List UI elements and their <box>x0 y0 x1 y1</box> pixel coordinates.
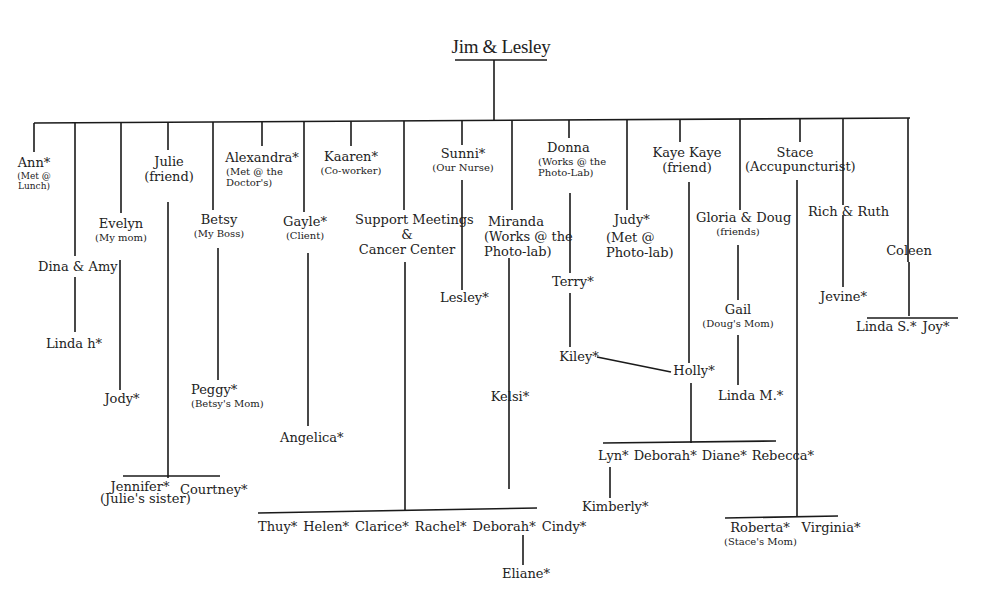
node-kaaren: Kaaren* (Co-worker) <box>318 150 384 176</box>
node-lyn: Lyn* <box>598 448 629 463</box>
node-holly: Holly* <box>672 364 716 379</box>
node-julie: Julie (friend) <box>142 155 196 185</box>
node-judy: Judy* (Met @ Photo-lab) <box>606 213 672 261</box>
node-coleen: Coleen <box>886 244 932 259</box>
node-stace: Stace (Accupuncturist) <box>745 146 845 173</box>
node-gail: Gail (Doug's Mom) <box>702 303 774 329</box>
node-betsy: Betsy (My Boss) <box>192 213 246 239</box>
node-jevine: Jevine* <box>820 290 866 305</box>
node-peggy: Peggy* (Betsy's Mom) <box>191 383 271 409</box>
node-angelica: Angelica* <box>280 431 340 446</box>
node-linda-s: Linda S.* <box>856 320 912 335</box>
node-rebecca: Rebecca* <box>752 448 814 463</box>
node-linda-h: Linda h* <box>44 337 104 352</box>
node-sunni: Sunni* (Our Nurse) <box>432 147 494 173</box>
node-terry: Terry* <box>552 275 592 290</box>
support-children-row: Thuy*Helen*Clarice*Rachel*Deborah*Cindy* <box>258 517 558 535</box>
node-diane: Diane* <box>702 448 747 463</box>
node-rachel: Rachel* <box>415 519 467 534</box>
node-kelsi: Kelsi* <box>490 390 530 405</box>
node-clarice: Clarice* <box>355 519 409 534</box>
node-donna: Donna (Works @ the Photo-Lab) <box>538 141 608 179</box>
node-joy: Joy* <box>918 320 954 335</box>
node-deborah: Deborah* <box>473 519 536 534</box>
holly-children-row: Lyn*Deborah*Diane*Rebecca* <box>598 446 798 464</box>
node-kiley: Kiley* <box>558 350 600 365</box>
node-eliane: Eliane* <box>500 567 552 582</box>
node-kimberly: Kimberly* <box>582 500 642 515</box>
node-miranda: Miranda (Works @ the Photo-lab) <box>484 215 568 260</box>
node-rich-ruth: Rich & Ruth <box>808 205 882 220</box>
node-roberta: Roberta* (Stace's Mom) <box>724 521 796 547</box>
node-lesley: Lesley* <box>440 291 488 306</box>
node-kaye-kaye: Kaye Kaye (friend) <box>652 146 722 176</box>
node-deborah-2: Deborah* <box>634 448 697 463</box>
node-gloria-doug: Gloria & Doug (friends) <box>696 211 780 237</box>
node-helen: Helen* <box>303 519 349 534</box>
node-linda-m: Linda M.* <box>718 389 778 404</box>
node-jennifer: Jennifer* (Julie's sister) <box>100 481 180 506</box>
node-support-meetings: Support Meetings & Cancer Center <box>355 213 459 258</box>
node-jody: Jody* <box>102 392 142 407</box>
root-node-jim-lesley: Jim & Lesley <box>447 36 555 58</box>
node-ann: Ann* (Met @ Lunch) <box>14 156 54 192</box>
root-title: Jim & Lesley <box>447 36 555 58</box>
node-cindy: Cindy* <box>542 519 587 534</box>
node-thuy: Thuy* <box>258 519 297 534</box>
node-dina-amy: Dina & Amy <box>38 260 112 275</box>
node-virginia: Virginia* <box>800 521 862 536</box>
node-gayle: Gayle* (Client) <box>282 215 328 241</box>
node-courtney: Courtney* <box>180 483 242 498</box>
node-alexandra: Alexandra* (Met @ the Doctor's) <box>224 151 300 189</box>
node-evelyn: Evelyn (My mom) <box>94 217 148 243</box>
